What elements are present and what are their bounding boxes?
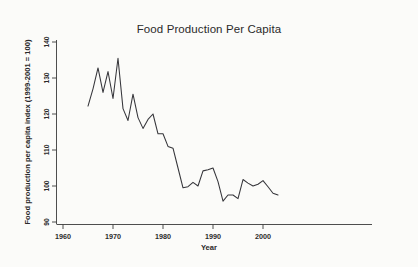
x-tick-label: 2000 xyxy=(255,232,271,241)
y-tick-label: 90 xyxy=(43,218,50,226)
food-production-line-chart: Food Production Per Capita 9010011012013… xyxy=(0,0,418,267)
x-tick-label: 1980 xyxy=(155,232,171,241)
y-tick-label: 110 xyxy=(43,144,50,155)
x-tick-label: 1970 xyxy=(105,232,121,241)
x-axis-title: Year xyxy=(201,243,217,252)
x-tick-label: 1990 xyxy=(205,232,221,241)
y-tick-label: 130 xyxy=(43,72,50,83)
chart-title: Food Production Per Capita xyxy=(137,23,282,35)
y-tick-label: 140 xyxy=(43,36,50,47)
x-tick-label: 1960 xyxy=(55,232,71,241)
y-tick-label: 120 xyxy=(43,108,50,119)
y-axis-title: Food production per capita index (1999-2… xyxy=(23,39,32,225)
y-tick-label: 100 xyxy=(43,180,50,191)
chart-page: Food Production Per Capita 9010011012013… xyxy=(0,0,418,267)
